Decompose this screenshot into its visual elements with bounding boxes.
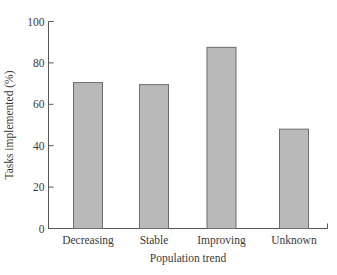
- x-category-label: Unknown: [271, 234, 317, 246]
- bar-chart: 020406080100 DecreasingStableImprovingUn…: [0, 0, 337, 275]
- x-category-label: Stable: [140, 234, 169, 246]
- bar-improving: [207, 47, 236, 228]
- y-tick-label: 40: [33, 140, 45, 152]
- y-tick-label: 60: [33, 98, 45, 110]
- y-tick-label: 80: [33, 57, 45, 69]
- x-category-label: Improving: [197, 234, 246, 247]
- x-category-label: Decreasing: [62, 234, 114, 247]
- y-tick-label: 100: [27, 16, 45, 28]
- x-axis-title: Population trend: [150, 252, 227, 265]
- bar-stable: [140, 85, 169, 229]
- y-axis-title: Tasks implemented (%): [3, 70, 16, 179]
- bar-unknown: [280, 129, 309, 228]
- y-axis: 020406080100: [27, 16, 53, 235]
- bars: [74, 47, 309, 228]
- y-tick-label: 20: [33, 181, 45, 193]
- y-tick-label: 0: [39, 223, 45, 235]
- bar-decreasing: [74, 83, 103, 229]
